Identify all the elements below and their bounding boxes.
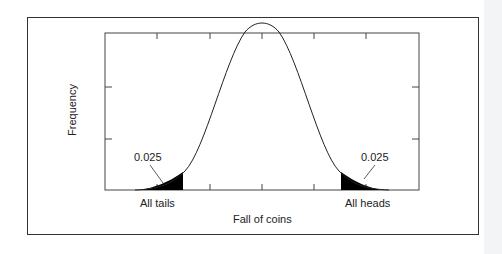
bell-curve [135, 23, 389, 190]
left-leader-line [150, 165, 163, 183]
left-tail-probability: 0.025 [134, 151, 162, 163]
plot-box [105, 33, 419, 190]
left-tail-label: All tails [140, 197, 175, 209]
right-tail-probability: 0.025 [361, 151, 389, 163]
right-tail-label: All heads [345, 197, 390, 209]
right-tail-shading [341, 172, 382, 190]
top-ticks [157, 33, 366, 39]
bottom-ticks [157, 184, 366, 190]
x-axis-label: Fall of coins [233, 213, 292, 225]
right-leader-line [364, 165, 375, 179]
side-ticks [105, 87, 419, 139]
y-axis-label: Frequency [66, 84, 78, 136]
